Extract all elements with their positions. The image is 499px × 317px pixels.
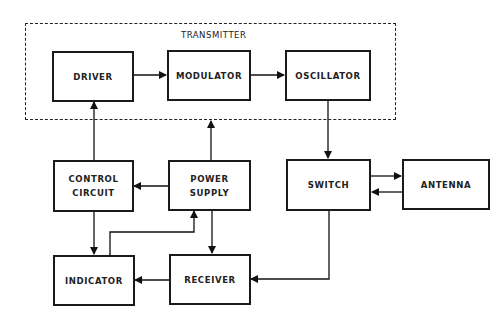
block-switch: SWITCH [286,159,371,211]
block-driver: DRIVER [52,51,134,102]
arrow-indicator-power [110,211,194,254]
block-power-supply: POWER SUPPLY [168,160,251,211]
arrow-switch-receiver [251,210,329,279]
block-control-circuit: CONTROL CIRCUIT [53,160,134,212]
block-receiver: RECEIVER [169,254,251,305]
block-antenna: ANTENNA [402,159,490,210]
block-oscillator: OSCILLATOR [285,50,371,101]
block-modulator: MODULATOR [167,50,251,101]
block-indicator: INDICATOR [53,255,135,306]
